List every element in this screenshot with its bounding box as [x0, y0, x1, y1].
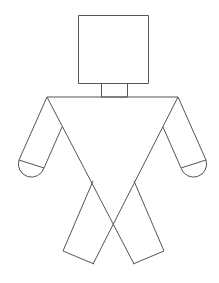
right-leg: [133, 181, 164, 264]
neck-rect: [102, 84, 128, 98]
stick-figure-drawing: [0, 0, 219, 283]
left-leg: [63, 181, 94, 264]
left-arm: [18, 97, 62, 177]
left-hand-semicircle: [18, 160, 44, 177]
right-hand-semicircle: [181, 160, 207, 177]
head-square: [79, 16, 149, 84]
right-arm: [163, 97, 207, 177]
